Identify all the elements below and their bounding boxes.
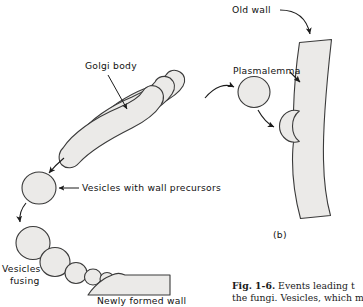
label-newly-formed-wall: Newly formed wall xyxy=(97,295,186,306)
panel-label-b: (b) xyxy=(273,229,287,240)
arrow-vesicle-descend xyxy=(20,203,26,222)
label-vesicles-fusing-line2: fusing xyxy=(10,275,40,286)
caption-line-1: Fig. 1-6. Events leading t xyxy=(232,280,363,292)
leader-old-wall xyxy=(280,10,310,34)
arrow-golgi-to-vesicle xyxy=(205,85,234,98)
figure-canvas: Old wall Plasmalemma (b) Golgi body Vesi… xyxy=(0,0,363,307)
label-vesicles-precursors: Vesicles with wall precursors xyxy=(82,182,221,193)
arrow-vesicle-to-wall xyxy=(258,110,274,127)
label-old-wall: Old wall xyxy=(232,4,271,15)
figure-caption: Fig. 1-6. Events leading t the fungi. Ve… xyxy=(232,280,363,303)
label-golgi-body: Golgi body xyxy=(85,60,137,71)
label-vesicles-fusing-line1: Vesicles xyxy=(2,263,41,274)
label-plasmalemma: Plasmalemma xyxy=(233,65,301,76)
caption-figure-number: Fig. 1-6. xyxy=(232,280,275,291)
vesicle-with-precursors xyxy=(22,172,56,204)
caption-line-2: the fungi. Vesicles, which m xyxy=(232,292,363,304)
free-vesicle xyxy=(238,77,270,108)
golgi-cisterna-bottom xyxy=(59,86,163,168)
fusing-vesicle-3 xyxy=(65,263,87,284)
caption-line-1-rest: Events leading t xyxy=(278,280,355,291)
